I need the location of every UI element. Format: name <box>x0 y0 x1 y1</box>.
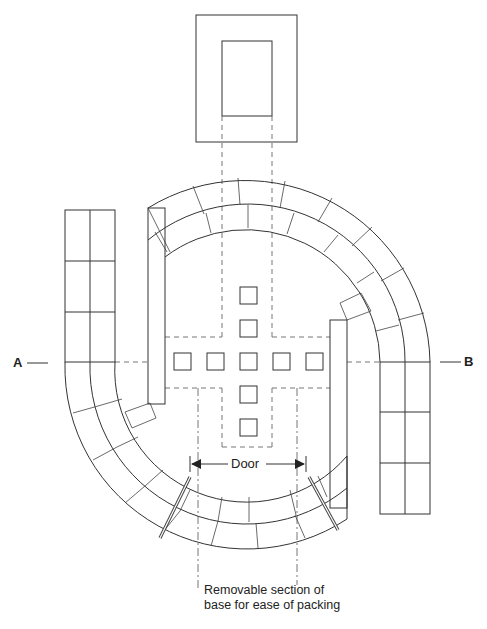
note-line-1: Removable section of <box>204 583 340 598</box>
section-label-a: A <box>13 355 22 370</box>
arrow-left-icon <box>191 459 201 469</box>
top-box-inner <box>222 41 272 116</box>
square <box>240 386 257 403</box>
right-straight-column <box>380 362 430 514</box>
plan-diagram <box>0 0 487 629</box>
square <box>207 353 224 370</box>
square <box>240 320 257 337</box>
square <box>240 287 257 304</box>
top-box-outer <box>196 15 297 142</box>
dashed-cross-projection <box>115 116 380 447</box>
square <box>273 353 290 370</box>
left-straight-column <box>65 210 115 362</box>
door-label: Door <box>228 456 262 471</box>
removable-section-note: Removable section of base for ease of pa… <box>204 583 340 613</box>
square <box>306 353 323 370</box>
note-line-2: base for ease of packing <box>204 598 340 613</box>
section-label-b: B <box>464 354 473 369</box>
right-inner-wall <box>330 320 347 508</box>
curved-wall-upper <box>148 178 430 362</box>
square <box>240 419 257 436</box>
curved-wall-lower <box>65 362 347 549</box>
removable-section-lines <box>198 388 297 590</box>
grid-of-squares <box>174 287 323 436</box>
square <box>240 353 257 370</box>
arrow-right-icon <box>295 459 305 469</box>
square <box>174 353 191 370</box>
